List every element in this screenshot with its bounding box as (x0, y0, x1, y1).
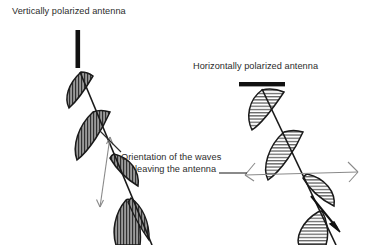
left-wave-lobe-1 (67, 72, 93, 108)
annotation-line-2: leaving the antenna (121, 163, 221, 175)
right-wave-lobe-3 (303, 174, 334, 206)
right-wave-group (249, 89, 336, 245)
annotation-orientation-of-waves: Orientation of the waves leaving the ant… (121, 151, 221, 175)
label-horizontally-polarized-antenna: Horizontally polarized antenna (193, 60, 318, 72)
right-wave-lobe-4 (298, 211, 327, 245)
leader-line-left (99, 130, 121, 152)
label-vertically-polarized-antenna: Vertically polarized antenna (12, 5, 126, 17)
horizontal-antenna-element (239, 82, 285, 86)
annotation-line-1: Orientation of the waves (121, 151, 221, 163)
diagram-canvas: Vertically polarized antenna Horizontall… (0, 0, 371, 245)
antenna-polarization-graphic (0, 0, 371, 245)
left-orientation-arrow (97, 137, 114, 207)
vertical-antenna-element (76, 30, 81, 68)
